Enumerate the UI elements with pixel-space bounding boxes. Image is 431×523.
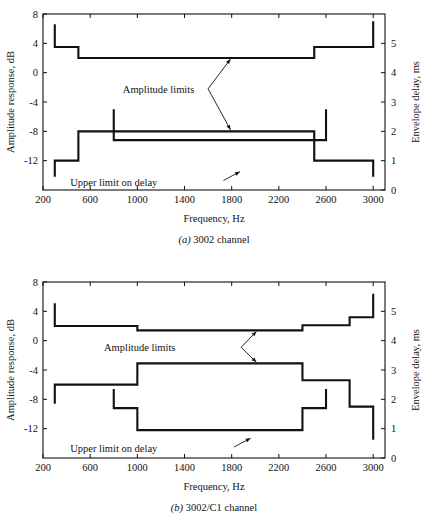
annotation-arrowhead (245, 438, 250, 442)
y-tick-label: 4 (33, 38, 39, 49)
panel-caption-text: 3002 channel (191, 234, 250, 245)
y-axis-label: Amplitude response, dB (5, 51, 16, 153)
y-tick-label: -4 (29, 365, 38, 376)
series-upper-amplitude-limit (55, 294, 373, 331)
x-tick-label: 2600 (316, 194, 337, 205)
y2-tick-label: 5 (391, 38, 396, 49)
y-tick-label: 8 (33, 9, 38, 20)
y2-axis-label: Envelope delay, ms (410, 61, 421, 143)
annotation-leader-line (208, 89, 230, 130)
x-tick-label: 1000 (127, 194, 148, 205)
y2-tick-label: 2 (391, 394, 396, 405)
y2-tick-label: 3 (391, 365, 396, 376)
annotation-label-upper-limit-on-delay: Upper limit on delay (70, 177, 158, 188)
annotation-arrowhead (235, 172, 240, 176)
annotation-arrowhead (226, 59, 230, 64)
panel-caption-label: (b) (171, 502, 184, 514)
y-tick-label: -12 (24, 155, 38, 166)
y2-tick-label: 2 (391, 126, 396, 137)
plot-frame (43, 14, 385, 190)
y2-tick-label: 5 (391, 306, 396, 317)
y2-tick-label: 1 (391, 423, 396, 434)
x-tick-label: 1800 (221, 462, 242, 473)
x-axis-label: Frequency, Hz (183, 481, 244, 492)
x-axis-label: Frequency, Hz (183, 213, 244, 224)
chart-3002-channel: 200600100014001800220026003000840-4-8-12… (0, 0, 431, 252)
y-tick-label: 0 (33, 335, 38, 346)
annotation-label-amplitude-limits: Amplitude limits (104, 342, 175, 353)
x-tick-label: 200 (35, 194, 51, 205)
panel-caption-label: (a) (178, 234, 191, 246)
y-tick-label: 8 (33, 277, 38, 288)
figure-panel-b: 200600100014001800220026003000840-4-8-12… (0, 262, 431, 523)
series-upper-amplitude-limit (55, 21, 373, 58)
y2-tick-label: 0 (391, 185, 396, 196)
y2-tick-label: 1 (391, 155, 396, 166)
annotation-arrowhead (227, 125, 231, 130)
y-tick-label: -8 (29, 394, 38, 405)
plot-area-b: 200600100014001800220026003000840-4-8-12… (0, 262, 431, 523)
chart-3002-c1-channel: 200600100014001800220026003000840-4-8-12… (0, 262, 431, 523)
y2-tick-label: 3 (391, 97, 396, 108)
y-tick-label: -8 (29, 126, 38, 137)
x-tick-label: 1400 (174, 194, 195, 205)
x-tick-label: 2600 (316, 462, 337, 473)
y2-axis-label: Envelope delay, ms (410, 329, 421, 411)
panel-caption: (b) 3002/C1 channel (171, 502, 257, 514)
plot-area-a: 200600100014001800220026003000840-4-8-12… (0, 0, 431, 252)
annotation-leader-line (208, 59, 230, 89)
y-tick-label: -12 (24, 423, 38, 434)
y2-tick-label: 0 (391, 453, 396, 464)
y-tick-label: 4 (33, 306, 39, 317)
x-tick-label: 3000 (363, 462, 384, 473)
x-tick-label: 3000 (363, 194, 384, 205)
figure-panel-a: 200600100014001800220026003000840-4-8-12… (0, 0, 431, 252)
annotation-label-upper-limit-on-delay: Upper limit on delay (70, 443, 158, 454)
y-tick-label: -4 (29, 97, 38, 108)
y-tick-label: 0 (33, 67, 38, 78)
series-upper-limit-on-delay (114, 109, 326, 140)
x-tick-label: 600 (82, 462, 98, 473)
x-tick-label: 1000 (127, 462, 148, 473)
annotation-label-amplitude-limits: Amplitude limits (123, 84, 194, 95)
x-tick-label: 1400 (174, 462, 195, 473)
panel-caption-text: 3002/C1 channel (183, 502, 257, 513)
x-tick-label: 600 (82, 194, 98, 205)
x-tick-label: 2200 (268, 462, 289, 473)
x-tick-label: 2200 (268, 194, 289, 205)
y-axis-label: Amplitude response, dB (5, 319, 16, 421)
series-upper-limit-on-delay (114, 389, 326, 430)
x-tick-label: 1800 (221, 194, 242, 205)
y2-tick-label: 4 (391, 67, 397, 78)
plot-frame (43, 282, 385, 458)
panel-caption: (a) 3002 channel (178, 234, 249, 246)
x-tick-label: 200 (35, 462, 51, 473)
y2-tick-label: 4 (391, 335, 397, 346)
